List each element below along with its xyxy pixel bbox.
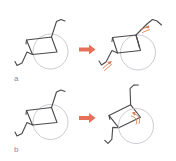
panel-b-after-wheel	[119, 109, 154, 144]
panel-b-label: b	[14, 145, 19, 154]
seat-frame	[27, 108, 58, 126]
footrest	[101, 125, 122, 144]
panel-b-transition-arrow	[79, 113, 96, 123]
panel-a-transition-arrow	[79, 45, 96, 55]
rear-wheel	[33, 105, 68, 140]
wheelchair-configuration-figure: a b	[0, 0, 176, 161]
footrest	[15, 123, 33, 137]
panel-a-label: a	[14, 74, 19, 83]
backrest	[125, 84, 144, 105]
caster-strut	[26, 111, 27, 115]
seat-frame	[108, 103, 141, 129]
panel-a-after-wheelchair	[99, 20, 162, 71]
panel-b-before-wheelchair	[15, 90, 68, 140]
figure-canvas: a b	[0, 0, 176, 161]
seat-frame	[27, 37, 58, 55]
caster-strut	[112, 38, 113, 42]
footrest-elevation-arrow	[103, 61, 112, 71]
panel-a-before-wheelchair	[15, 20, 68, 70]
transition-arrow-glyph	[79, 113, 96, 123]
backrest-reclined	[136, 20, 162, 48]
panel-b-after-wheelchair	[90, 84, 153, 144]
caster-strut	[26, 40, 27, 44]
rear-wheel	[33, 34, 68, 69]
footrest	[15, 52, 33, 66]
rear-wheel	[119, 109, 154, 144]
transition-arrow-glyph	[79, 45, 96, 55]
